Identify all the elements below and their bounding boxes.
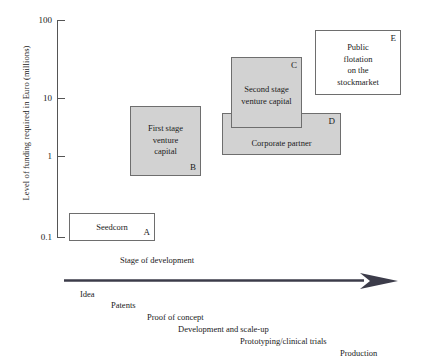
stage-box-b-label: First stage venture capital bbox=[131, 123, 200, 158]
stage-box-b-line3: capital bbox=[154, 146, 177, 156]
stage-box-d-label: Corporate partner bbox=[223, 138, 340, 150]
stage-box-e-line1: Public bbox=[347, 42, 369, 52]
stage-box-e-line4: stockmarket bbox=[337, 77, 379, 87]
stage-box-a-tag: A bbox=[144, 228, 151, 237]
stage-box-public-flotation[interactable]: Public flotation on the stockmarket E bbox=[315, 30, 401, 95]
stage-box-first-stage-venture-capital[interactable]: First stage venture capital B bbox=[130, 106, 201, 176]
stage-box-b-line2: venture bbox=[153, 135, 179, 145]
stage-box-c-line1: Second stage bbox=[244, 84, 289, 94]
stage-label-development-and-scale-up: Development and scale-up bbox=[178, 324, 269, 334]
stage-label-patents: Patents bbox=[111, 300, 136, 310]
x-axis-title: Stage of development bbox=[120, 255, 194, 265]
y-tick-label-100: 100 bbox=[18, 16, 52, 25]
stage-box-c-line2: venture capital bbox=[241, 96, 291, 106]
stage-box-e-line3: on the bbox=[347, 65, 368, 75]
stage-box-c-tag: C bbox=[291, 61, 297, 70]
y-axis-line bbox=[57, 20, 58, 238]
y-axis-cap-bottom bbox=[57, 237, 65, 238]
chart-canvas: 100 10 1 0.1 Level of funding required i… bbox=[0, 0, 422, 362]
x-axis-arrow-icon bbox=[62, 272, 402, 290]
stage-label-prototyping-clinical-trials: Prototyping/clinical trials bbox=[240, 336, 327, 346]
y-tick-1 bbox=[57, 156, 65, 157]
stage-box-b-line1: First stage bbox=[148, 123, 183, 133]
stage-box-seedcorn[interactable]: Seedcorn A bbox=[69, 213, 155, 241]
y-tick-label-0-1: 0.1 bbox=[18, 233, 52, 242]
stage-label-idea: Idea bbox=[80, 289, 95, 299]
stage-box-c-label: Second stage venture capital bbox=[232, 84, 301, 107]
y-axis-cap-top bbox=[57, 20, 65, 21]
y-tick-10 bbox=[57, 98, 65, 99]
stage-label-production: Production bbox=[340, 348, 377, 358]
stage-box-d-tag: D bbox=[329, 117, 336, 126]
stage-label-proof-of-concept: Proof of concept bbox=[147, 312, 204, 322]
stage-box-a-label: Seedcorn bbox=[70, 222, 154, 234]
stage-box-e-line2: flotation bbox=[344, 54, 373, 64]
stage-box-b-tag: B bbox=[190, 163, 196, 172]
stage-box-e-tag: E bbox=[391, 34, 397, 43]
y-axis-title: Level of funding required in Euro (milli… bbox=[21, 28, 31, 218]
stage-box-second-stage-venture-capital[interactable]: Second stage venture capital C bbox=[231, 57, 302, 128]
stage-box-e-label: Public flotation on the stockmarket bbox=[316, 42, 400, 88]
